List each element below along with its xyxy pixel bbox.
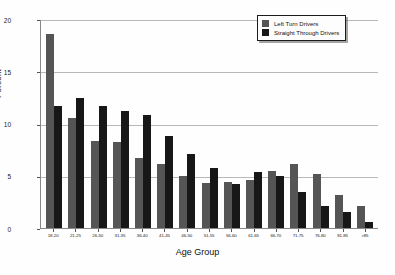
x-tick-mark <box>298 229 299 232</box>
x-tick-mark <box>120 229 121 232</box>
x-tick-mark <box>75 229 76 232</box>
bar-left-turn <box>246 180 254 228</box>
plot-area <box>40 20 378 229</box>
legend-label: Left Turn Drivers <box>274 21 318 27</box>
x-tick-mark <box>343 229 344 232</box>
x-tick-mark <box>98 229 99 232</box>
bar-straight-through <box>343 212 351 228</box>
legend-entry: Left Turn Drivers <box>262 19 339 28</box>
x-tick-mark <box>209 229 210 232</box>
bar-left-turn <box>357 206 365 228</box>
bar-group <box>176 20 198 228</box>
bar-groups <box>41 20 378 228</box>
y-tick-label: 10 <box>0 121 11 128</box>
bar-left-turn <box>179 176 187 228</box>
bar-straight-through <box>365 222 373 228</box>
x-tick-mark <box>53 229 54 232</box>
bar-left-turn <box>313 174 321 228</box>
bar-chart-figure: Percent 05101520 18-2021-2526-3031-3536-… <box>0 0 395 275</box>
legend-label: Straight Through Drivers <box>274 30 339 36</box>
bar-straight-through <box>321 206 329 228</box>
bar-left-turn <box>46 34 54 228</box>
bar-group <box>65 20 87 228</box>
y-tick-label: 5 <box>0 173 11 180</box>
bar-straight-through <box>121 111 129 228</box>
bar-straight-through <box>165 136 173 228</box>
bar-group <box>43 20 65 228</box>
legend-swatch-icon <box>262 20 269 27</box>
x-tick-mark <box>187 229 188 232</box>
x-tick-mark <box>254 229 255 232</box>
bar-group <box>243 20 265 228</box>
bar-group <box>154 20 176 228</box>
x-axis-ticks: 18-2021-2526-3031-3536-4041-4546-5051-55… <box>40 229 378 239</box>
bar-left-turn <box>157 164 165 228</box>
bar-group <box>87 20 109 228</box>
bar-group <box>265 20 287 228</box>
bar-left-turn <box>91 141 99 228</box>
bar-straight-through <box>54 106 62 228</box>
x-tick-mark <box>231 229 232 232</box>
bar-straight-through <box>99 106 107 228</box>
x-axis-title: Age Group <box>0 247 395 257</box>
bar-group <box>110 20 132 228</box>
bar-group <box>287 20 309 228</box>
bar-group <box>332 20 354 228</box>
bar-straight-through <box>76 98 84 228</box>
bar-left-turn <box>335 195 343 228</box>
bar-left-turn <box>268 171 276 228</box>
y-tick-label: 15 <box>0 69 11 76</box>
y-tick-label: 20 <box>0 17 11 24</box>
bar-straight-through <box>232 184 240 228</box>
x-tick-mark <box>276 229 277 232</box>
bar-straight-through <box>187 154 195 228</box>
bar-group <box>309 20 331 228</box>
x-tick-mark <box>164 229 165 232</box>
legend-swatch-icon <box>262 29 269 36</box>
x-tick-mark <box>142 229 143 232</box>
bar-left-turn <box>202 183 210 228</box>
bar-left-turn <box>113 142 121 228</box>
x-tick: >85 <box>354 229 376 239</box>
bar-left-turn <box>68 118 76 228</box>
bar-group <box>132 20 154 228</box>
bar-straight-through <box>298 192 306 228</box>
x-tick-mark <box>320 229 321 232</box>
bar-group <box>354 20 376 228</box>
bar-left-turn <box>224 182 232 228</box>
bar-group <box>221 20 243 228</box>
bar-left-turn <box>290 164 298 228</box>
bar-group <box>198 20 220 228</box>
chart-legend: Left Turn DriversStraight Through Driver… <box>257 15 346 41</box>
x-tick-label: >85 <box>348 233 382 238</box>
bar-straight-through <box>276 176 284 228</box>
y-tick-label: 0 <box>0 226 11 233</box>
bar-straight-through <box>210 168 218 228</box>
bar-left-turn <box>135 158 143 228</box>
legend-entry: Straight Through Drivers <box>262 28 339 37</box>
bar-straight-through <box>254 172 262 228</box>
x-tick-mark <box>365 229 366 232</box>
bar-straight-through <box>143 115 151 228</box>
